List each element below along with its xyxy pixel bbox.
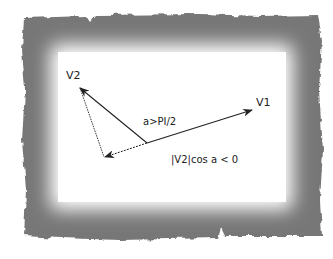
label-v2: V2	[66, 70, 81, 81]
vector-projection-diagram	[0, 0, 333, 259]
label-v1: V1	[256, 97, 271, 108]
angle-label: a>PI/2	[143, 117, 176, 127]
projection-label: |V2|cos a < 0	[171, 155, 238, 165]
torn-paper-frame	[0, 0, 333, 259]
